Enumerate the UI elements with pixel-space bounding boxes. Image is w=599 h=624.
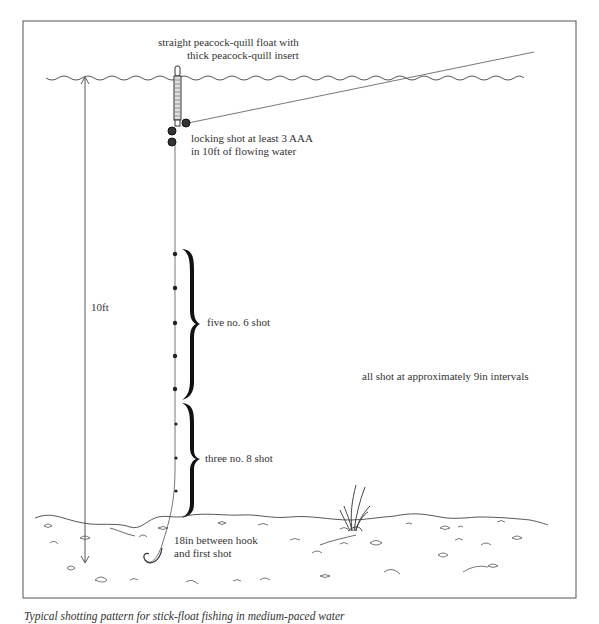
brace-no8 [182,403,200,518]
fishing-rig-diagram [0,0,599,624]
depth-label: 10ft [91,301,109,314]
river-bed-ridge [110,528,135,536]
river-bed-ridge-right [320,535,356,545]
float-label-line1: straight peacock-quill float with [158,36,299,49]
float-label: straight peacock-quill float with thick … [158,36,299,62]
hook-note-line1: 18in between hook [174,534,258,547]
no6-group-label: five no. 6 shot [207,316,270,329]
river-bed-line [35,514,548,528]
main-line [145,145,175,562]
no8-group-label: three no. 8 shot [205,452,273,465]
float-label-line2: thick peacock-quill insert [158,49,299,62]
hook-note: 18in between hook and first shot [174,534,258,560]
locking-shot-label-line2: in 10ft of flowing water [191,145,313,158]
depth-arrow-icon [81,77,89,563]
weed-icon [340,485,370,531]
locking-shot-label: locking shot at least 3 AAA in 10ft of f… [191,132,313,158]
float-icon [174,66,181,126]
locking-shot-label-line1: locking shot at least 3 AAA [191,132,313,145]
water-surface [46,76,524,80]
brace-no6 [182,249,200,400]
spacing-note: all shot at approximately 9in intervals [362,370,529,383]
line-to-rod [188,52,534,123]
hook-note-line2: and first shot [174,547,258,560]
figure-caption: Typical shotting pattern for stick-float… [24,610,344,622]
